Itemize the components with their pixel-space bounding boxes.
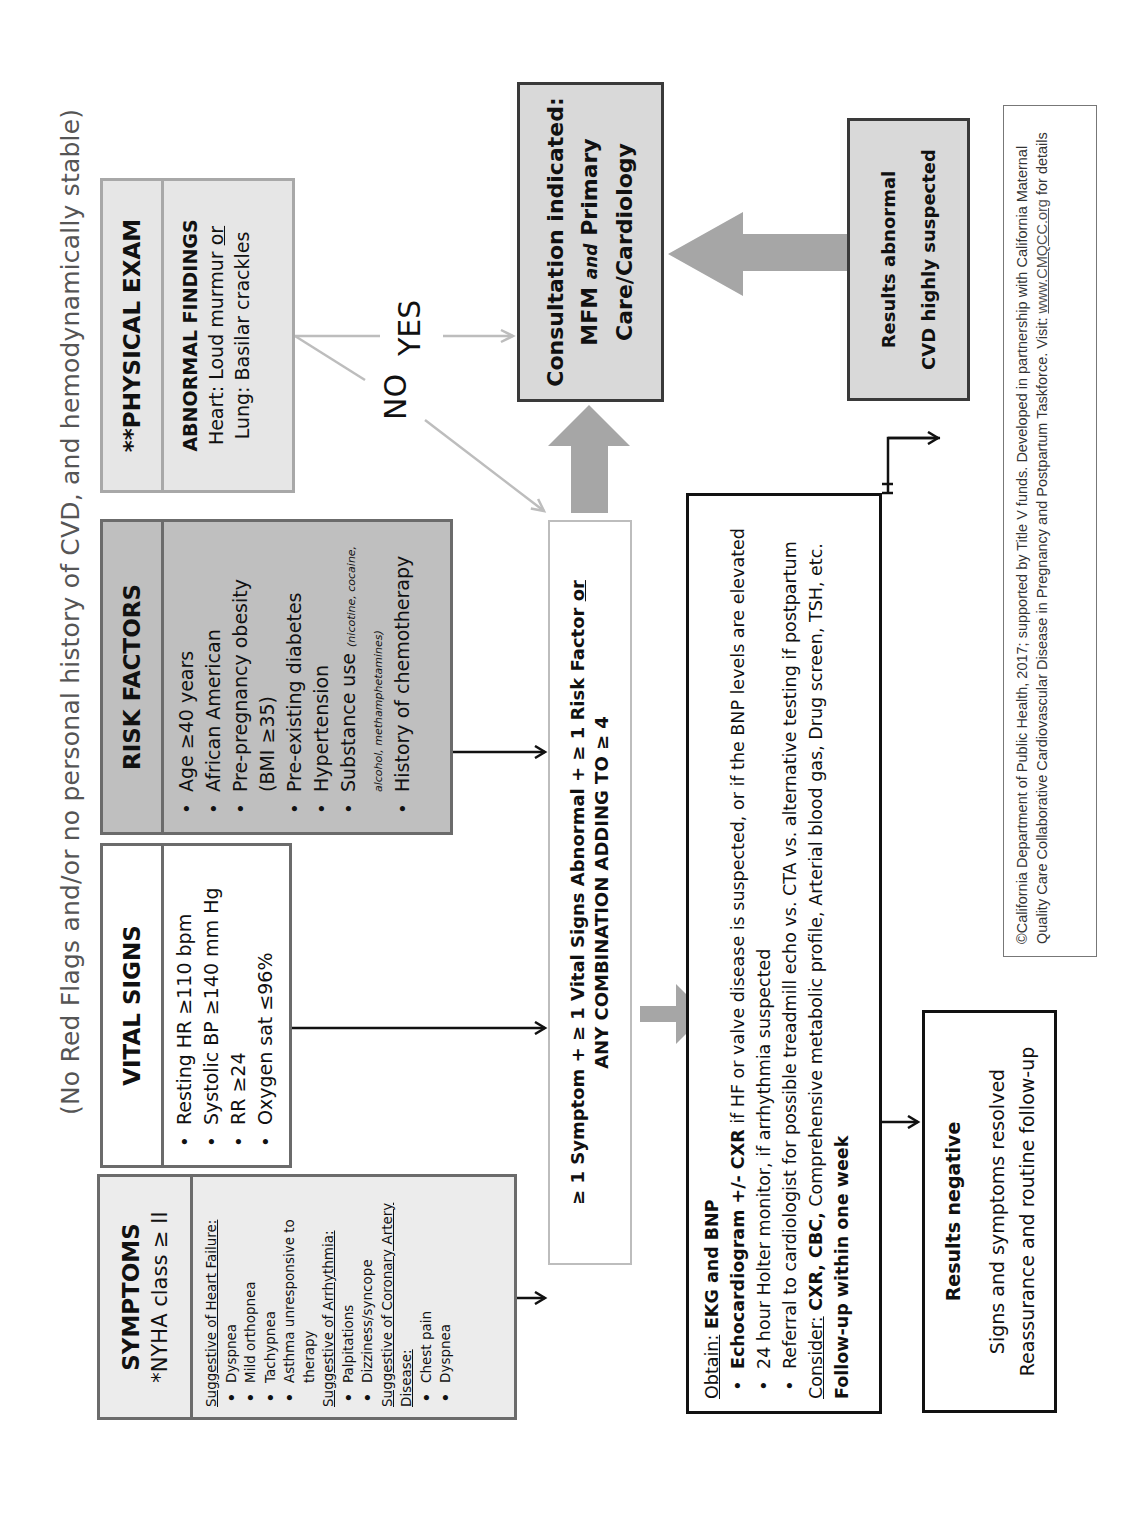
workup-item: Referral to cardiologist for possible tr… <box>777 508 803 1399</box>
workup-box: Obtain: EKG and BNP Echocardiogram +/- C… <box>686 493 882 1414</box>
mfm-label: MFM <box>577 287 602 346</box>
workup-item-bold: Echocardiogram +/- CXR <box>728 1129 748 1369</box>
symptom-item: Dyspnea <box>222 1183 242 1411</box>
followup-line: Follow-up within one week <box>829 508 855 1399</box>
risk-factors-title: RISK FACTORS <box>119 584 145 770</box>
criteria-line-2: ANY COMBINATION ADDING TO ≥ 4 <box>590 716 614 1069</box>
risk-factor-item: African American <box>200 532 227 822</box>
vital-signs-title: VITAL SIGNS <box>119 925 145 1086</box>
criteria-box: ≥ 1 Symptom + ≥ 1 Vital Signs Abnormal +… <box>548 520 632 1265</box>
copyright-footer: ©California Department of Public Health,… <box>1003 105 1097 957</box>
vital-sign-item: Oxygen sat ≤96% <box>252 856 279 1155</box>
no-label: NO <box>378 374 413 420</box>
symptoms-section-heading: Suggestive of Heart Failure: <box>202 1183 222 1411</box>
risk-factor-item: Substance use (nicotine, cocaine, alcoho… <box>335 532 389 822</box>
consider-text: Comprehensive metabolic profile, Arteria… <box>806 543 826 1212</box>
risk-factor-item: Hypertension <box>308 532 335 822</box>
arrow-exam-no <box>295 336 544 511</box>
workup-list: Echocardiogram +/- CXR if HF or valve di… <box>725 508 803 1399</box>
heart-finding-text: Heart: Loud murmur <box>205 245 227 445</box>
symptom-item: Palpitations <box>339 1183 359 1411</box>
results-abnormal-box: Results abnormal CVD highly suspected <box>847 118 970 401</box>
cmqcc-link[interactable]: www.CMQCC.org <box>1034 199 1050 313</box>
workup-item-text: Referral to cardiologist for possible tr… <box>780 541 800 1369</box>
criteria-line-1: ≥ 1 Symptom + ≥ 1 Vital Signs Abnormal +… <box>566 580 590 1205</box>
obtain-label: Obtain: <box>702 1335 722 1399</box>
results-abnormal-line-1: Results abnormal <box>869 171 909 349</box>
workup-item: 24 hour Holter monitor, if arrhythmia su… <box>751 508 777 1399</box>
arrow-abnormal-to-consultation <box>668 212 847 296</box>
symptom-item: Asthma unresponsive to therapy <box>280 1183 319 1411</box>
criteria-text: ≥ 1 Symptom + ≥ 1 Vital Signs Abnormal +… <box>567 601 588 1205</box>
criteria-or: or <box>567 580 588 601</box>
risk-factor-item: History of chemotherapy <box>389 532 416 822</box>
arrow-workup-to-abnormal <box>882 438 940 493</box>
symptoms-section-heading: Suggestive of Arrhythmia: <box>319 1183 339 1411</box>
risk-factor-item: Age ≥40 years <box>173 532 200 822</box>
workup-item-text: 24 hour Holter monitor, if arrhythmia su… <box>754 949 774 1369</box>
workup-item: Echocardiogram +/- CXR if HF or valve di… <box>725 508 751 1399</box>
risk-factor-item: Pre-pregnancy obesity (BMI ≥35) <box>227 532 281 822</box>
vital-sign-item: Systolic BP ≥140 mm Hg <box>198 856 225 1155</box>
symptom-item: Chest pain <box>417 1183 437 1411</box>
risk-factor-item: Pre-existing diabetes <box>281 532 308 822</box>
consultation-line-2: MFM and Primary <box>573 138 608 345</box>
yes-label: YES <box>392 300 427 356</box>
vital-sign-item: RR ≥24 <box>225 856 252 1155</box>
symptom-item: Dyspnea <box>436 1183 456 1411</box>
physical-exam-title: **PHYSICAL EXAM <box>119 219 145 452</box>
and-label: and <box>581 243 601 279</box>
symptoms-section-heading: Suggestive of Coronary Artery Disease: <box>378 1183 417 1411</box>
obtain-value: EKG and BNP <box>702 1199 722 1329</box>
results-negative-title: Results negative <box>938 1122 968 1302</box>
obtain-line: Obtain: EKG and BNP <box>699 508 725 1399</box>
or-label: or <box>205 226 227 245</box>
symptom-item: Dizziness/syncope <box>358 1183 378 1411</box>
consultation-line-3: Care/Cardiology <box>608 143 642 341</box>
consider-line: Consider: CXR, CBC, Comprehensive metabo… <box>803 508 829 1399</box>
footer-suffix: for details <box>1034 132 1050 199</box>
symptom-item: Mild orthopnea <box>241 1183 261 1411</box>
symptoms-subtitle: *NYHA class ≥ II <box>148 1211 172 1382</box>
risk-factors-box: RISK FACTORS Age ≥40 years African Ameri… <box>100 519 453 835</box>
risk-factor-item-label: Substance use <box>337 653 359 792</box>
workup-item-text: if HF or valve disease is suspected, or … <box>728 528 748 1129</box>
vital-signs-list: Resting HR ≥110 bpm Systolic BP ≥140 mm … <box>171 856 279 1155</box>
symptom-item: Tachypnea <box>261 1183 281 1411</box>
consultation-line-1: Consultation indicated: <box>539 97 573 386</box>
lung-finding: Lung: Basilar crackles <box>229 191 255 480</box>
results-abnormal-line-2: CVD highly suspected <box>909 149 949 370</box>
vital-signs-box: VITAL SIGNS Resting HR ≥110 bpm Systolic… <box>100 843 292 1168</box>
results-negative-line-1: Signs and symptoms resolved <box>982 1069 1012 1354</box>
abnormal-findings-label: ABNORMAL FINDINGS <box>177 191 203 480</box>
vital-sign-item: Resting HR ≥110 bpm <box>171 856 198 1155</box>
heart-finding: Heart: Loud murmur or <box>203 191 229 480</box>
risk-factors-list: Age ≥40 years African American Pre-pregn… <box>173 532 416 822</box>
physical-exam-box: **PHYSICAL EXAM ABNORMAL FINDINGS Heart:… <box>100 178 295 493</box>
symptoms-title: SYMPTOMS <box>118 1223 144 1371</box>
consider-bold: CXR, CBC, <box>806 1212 826 1311</box>
consultation-box: Consultation indicated: MFM and Primary … <box>517 82 664 402</box>
results-negative-box: Results negative Signs and symptoms reso… <box>922 1010 1057 1413</box>
flowchart-canvas: (No Red Flags and/or no personal history… <box>0 0 1131 1514</box>
consider-label: Consider: <box>806 1316 826 1399</box>
results-negative-line-2: Reassurance and routine follow-up <box>1012 1047 1042 1377</box>
symptoms-list: Suggestive of Heart Failure: Dyspnea Mil… <box>202 1183 456 1411</box>
symptoms-box: SYMPTOMS *NYHA class ≥ II Suggestive of … <box>97 1174 517 1420</box>
arrow-criteria-to-consultation <box>548 405 630 513</box>
primary-label: Primary <box>577 138 602 235</box>
